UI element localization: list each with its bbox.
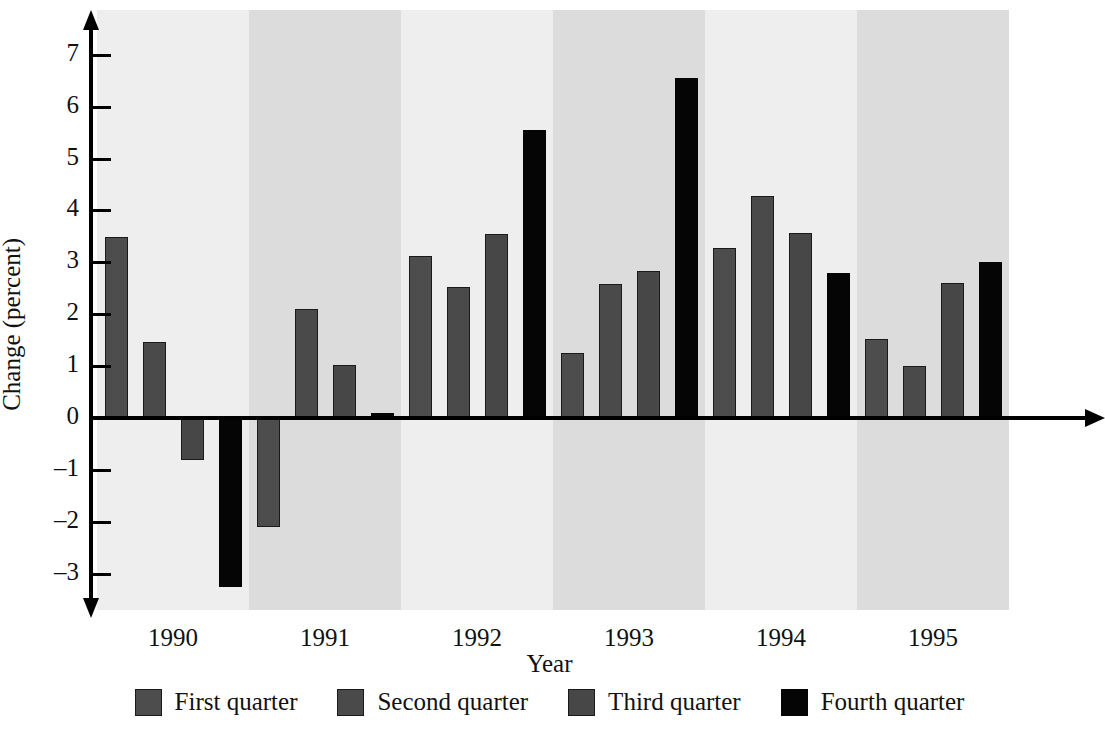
- bar-1993-q2: [599, 284, 622, 418]
- legend-label: Third quarter: [608, 688, 741, 716]
- bar-1995-q2: [903, 366, 926, 418]
- y-tick-mark: [93, 313, 111, 316]
- bar-1990-q4: [219, 418, 242, 587]
- legend-swatch-icon: [337, 689, 364, 716]
- bar-1993-q1: [561, 353, 584, 418]
- y-tick-label: 0: [67, 403, 80, 428]
- bar-1991-q2: [295, 309, 318, 418]
- legend-item-q1[interactable]: First quarter: [135, 688, 298, 716]
- bar-1992-q2: [447, 287, 470, 418]
- legend-swatch-icon: [135, 689, 162, 716]
- y-tick-mark: [93, 521, 111, 524]
- bar-1992-q1: [409, 256, 432, 418]
- y-tick-label: 4: [67, 195, 80, 220]
- x-tick-label-1995: 1995: [857, 624, 1009, 652]
- y-axis-arrow-down-icon: [83, 598, 99, 618]
- x-tick-label-1992: 1992: [401, 624, 553, 652]
- bar-1991-q1: [257, 418, 280, 527]
- legend-item-q4[interactable]: Fourth quarter: [781, 688, 965, 716]
- bar-1990-q2: [143, 342, 166, 418]
- bar-1990-q3: [181, 418, 204, 460]
- x-tick-label-1994: 1994: [705, 624, 857, 652]
- bar-1993-q3: [637, 271, 660, 418]
- legend-item-q2[interactable]: Second quarter: [337, 688, 528, 716]
- y-tick-label: 2: [67, 299, 80, 324]
- y-tick-label: 7: [67, 40, 80, 65]
- bar-1994-q4: [827, 273, 850, 418]
- bar-1995-q3: [941, 283, 964, 418]
- bar-1994-q1: [713, 248, 736, 418]
- y-tick-label: –1: [54, 455, 79, 480]
- y-tick-mark: [93, 261, 111, 264]
- y-tick-label: 5: [67, 144, 80, 169]
- bar-1992-q3: [485, 234, 508, 418]
- chart-legend: First quarterSecond quarterThird quarter…: [0, 688, 1099, 716]
- y-tick-mark: [93, 469, 111, 472]
- bar-1994-q2: [751, 196, 774, 418]
- bar-1993-q4: [675, 78, 698, 418]
- bar-1990-q1: [105, 237, 128, 418]
- y-tick-label: –2: [54, 507, 79, 532]
- plot-area: 76543210–1–2–3 199019911992199319941995: [89, 10, 1075, 610]
- y-tick-mark: [93, 54, 111, 57]
- y-tick-mark: [93, 365, 111, 368]
- y-tick-mark: [93, 209, 111, 212]
- legend-item-q3[interactable]: Third quarter: [568, 688, 741, 716]
- bar-1992-q4: [523, 130, 546, 418]
- y-tick-label: –3: [54, 559, 79, 584]
- legend-swatch-icon: [568, 689, 595, 716]
- x-tick-label-1990: 1990: [97, 624, 249, 652]
- y-tick-label: 6: [67, 92, 80, 117]
- x-axis-line: [89, 416, 1087, 420]
- legend-label: First quarter: [175, 688, 298, 716]
- x-tick-label-1991: 1991: [249, 624, 401, 652]
- legend-label: Second quarter: [377, 688, 528, 716]
- y-axis-arrow-up-icon: [83, 10, 99, 30]
- bar-1995-q1: [865, 339, 888, 418]
- bar-1995-q4: [979, 262, 1002, 418]
- y-axis-title: Change (percent): [0, 238, 26, 411]
- x-axis-title: Year: [0, 650, 1099, 678]
- y-tick-mark: [93, 573, 111, 576]
- x-tick-label-1993: 1993: [553, 624, 705, 652]
- x-axis-arrow-right-icon: [1085, 409, 1105, 427]
- y-tick-mark: [93, 158, 111, 161]
- y-tick-mark: [93, 106, 111, 109]
- y-tick-label: 3: [67, 247, 80, 272]
- bar-1991-q3: [333, 365, 356, 418]
- legend-swatch-icon: [781, 689, 808, 716]
- bar-1994-q3: [789, 233, 812, 418]
- legend-label: Fourth quarter: [821, 688, 965, 716]
- y-tick-label: 1: [67, 351, 80, 376]
